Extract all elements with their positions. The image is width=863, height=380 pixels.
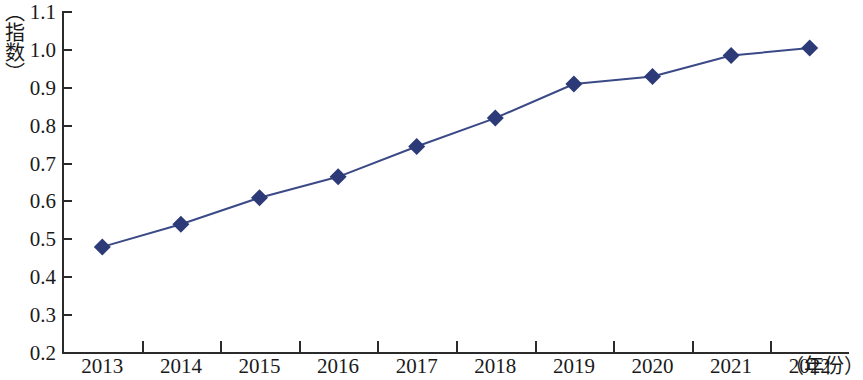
y-axis-tick-labels: 1.11.00.90.80.70.60.50.40.30.2 [0, 0, 58, 380]
data-point-marker [723, 47, 740, 64]
x-axis-tick [613, 341, 615, 352]
x-axis-tick [377, 341, 379, 352]
data-point-marker [251, 189, 268, 206]
series-plot [0, 0, 863, 380]
x-axis-tick-label: 2017 [396, 356, 438, 377]
y-axis-tick-label: 1.1 [30, 2, 56, 23]
y-axis-line [62, 11, 64, 354]
y-axis-tick [64, 314, 72, 316]
data-point-marker [408, 138, 425, 155]
x-axis-tick [692, 341, 694, 352]
x-axis-tick [220, 341, 222, 352]
y-axis-tick-label: 0.5 [30, 229, 56, 250]
x-axis-tick-label: 2021 [710, 356, 752, 377]
x-axis-tick [535, 341, 537, 352]
y-axis-tick-label: 1.0 [30, 39, 56, 60]
x-axis-tick-label: 2020 [632, 356, 674, 377]
x-axis-tick [142, 341, 144, 352]
data-point-marker [565, 75, 582, 92]
y-axis-tick [64, 276, 72, 278]
x-axis-tick-label: 2018 [474, 356, 516, 377]
y-axis-tick [64, 87, 72, 89]
line-chart: （指数） 1.11.00.90.80.70.60.50.40.30.2 2013… [0, 0, 863, 380]
y-axis-tick-label: 0.2 [30, 343, 56, 364]
data-point-marker [644, 68, 661, 85]
x-axis-tick [456, 341, 458, 352]
y-axis-tick-label: 0.6 [30, 191, 56, 212]
x-axis-tick-label: 2019 [553, 356, 595, 377]
data-point-marker [172, 216, 189, 233]
y-axis-tick-label: 0.7 [30, 153, 56, 174]
x-axis-tick-label: 2013 [81, 356, 123, 377]
y-axis-tick-label: 0.9 [30, 77, 56, 98]
x-axis-tick-label: 2015 [239, 356, 281, 377]
x-axis-title: （年份） [784, 356, 863, 376]
x-axis-tick-label: 2016 [317, 356, 359, 377]
y-axis-tick-label: 0.8 [30, 115, 56, 136]
y-axis-tick-label: 0.3 [30, 305, 56, 326]
x-axis-tick [770, 341, 772, 352]
y-axis-tick [64, 49, 72, 51]
y-axis-tick [64, 11, 72, 13]
x-axis-tick [299, 341, 301, 352]
data-point-marker [487, 110, 504, 127]
y-axis-tick [64, 238, 72, 240]
y-axis-tick [64, 125, 72, 127]
data-point-marker [801, 39, 818, 56]
y-axis-tick-label: 0.4 [30, 267, 56, 288]
data-point-marker [94, 238, 111, 255]
y-axis-tick [64, 200, 72, 202]
x-axis-tick-label: 2014 [160, 356, 202, 377]
data-point-marker [330, 168, 347, 185]
y-axis-tick [64, 163, 72, 165]
series-line [102, 48, 809, 247]
